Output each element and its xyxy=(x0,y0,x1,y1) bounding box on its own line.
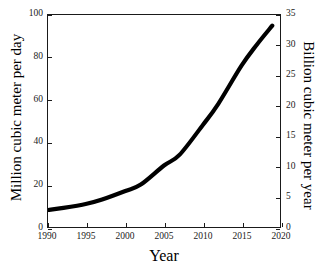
y-axis-left-tick-label: 80 xyxy=(17,52,43,62)
y-axis-right-tick-label: 10 xyxy=(286,162,312,172)
y-axis-left-tick xyxy=(48,229,52,230)
x-axis-title: Year xyxy=(47,248,281,264)
x-axis-tick xyxy=(87,223,88,227)
x-axis-tick-label: 2015 xyxy=(222,232,262,242)
x-axis-tick xyxy=(204,223,205,227)
y-axis-right-tick-label: 25 xyxy=(286,70,312,80)
y-axis-left-title: Million cubic meter per day xyxy=(9,13,24,223)
y-axis-right-tick-label: 30 xyxy=(286,40,312,50)
x-axis-tick-label: 2005 xyxy=(144,232,184,242)
plot-area xyxy=(47,14,281,228)
y-axis-right-tick xyxy=(276,137,280,138)
x-axis-tick-label: 2020 xyxy=(261,232,301,242)
x-axis-tick-label: 1995 xyxy=(66,232,106,242)
y-axis-right-tick xyxy=(276,45,280,46)
y-axis-right-tick xyxy=(276,229,280,230)
y-axis-right-tick-label: 20 xyxy=(286,101,312,111)
y-axis-right-tick-label: 5 xyxy=(286,192,312,202)
y-axis-left-tick xyxy=(48,186,52,187)
y-axis-right-tick-label: 15 xyxy=(286,131,312,141)
y-axis-right-tick xyxy=(276,198,280,199)
y-axis-right-tick xyxy=(276,76,280,77)
y-axis-left-tick-label: 60 xyxy=(17,95,43,105)
x-axis-tick-label: 2000 xyxy=(105,232,145,242)
y-axis-right-tick xyxy=(276,106,280,107)
x-axis-tick xyxy=(48,223,49,227)
data-line-series xyxy=(48,15,280,227)
x-axis-tick xyxy=(165,223,166,227)
y-axis-right-tick-label: 35 xyxy=(286,9,312,19)
y-axis-left-tick xyxy=(48,15,52,16)
y-axis-left-tick-label: 100 xyxy=(17,9,43,19)
x-axis-tick-label: 1990 xyxy=(27,232,67,242)
y-axis-right-tick xyxy=(276,167,280,168)
y-axis-left-tick xyxy=(48,143,52,144)
x-axis-tick xyxy=(126,223,127,227)
x-axis-tick xyxy=(282,223,283,227)
y-axis-left-tick-label: 20 xyxy=(17,180,43,190)
y-axis-left-tick xyxy=(48,100,52,101)
x-axis-tick-label: 2010 xyxy=(183,232,223,242)
series-natural-gas-path xyxy=(48,26,272,210)
chart-figure: Million cubic meter per day Billion cubi… xyxy=(0,0,322,273)
y-axis-left-tick xyxy=(48,57,52,58)
x-axis-tick xyxy=(243,223,244,227)
y-axis-left-tick-label: 40 xyxy=(17,137,43,147)
y-axis-right-tick xyxy=(276,15,280,16)
